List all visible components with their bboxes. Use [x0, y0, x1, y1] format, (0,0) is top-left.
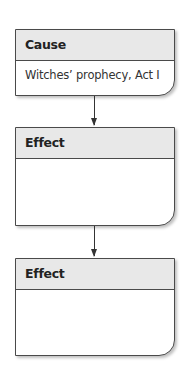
effect-header-2: Effect: [16, 259, 174, 290]
cause-header: Cause: [16, 30, 174, 61]
arrow-down-icon: [94, 96, 95, 125]
effect-body-2[interactable]: [16, 290, 174, 297]
effect-box-1: Effect: [15, 127, 175, 226]
effect-header-1: Effect: [16, 128, 174, 159]
cause-box: Cause Witches’ prophecy, Act I: [15, 29, 175, 96]
cause-body[interactable]: Witches’ prophecy, Act I: [16, 61, 174, 82]
arrow-down-icon: [94, 226, 95, 256]
effect-body-1[interactable]: [16, 159, 174, 166]
effect-box-2: Effect: [15, 258, 175, 356]
